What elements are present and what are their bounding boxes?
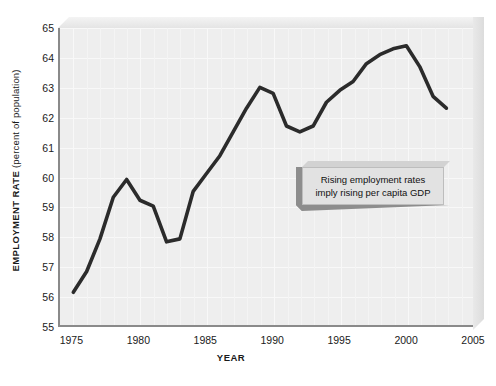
y-tick-label: 55 [30,321,54,333]
plot-box-right-bevel [473,17,484,330]
y-tick-label: 63 [30,82,54,94]
employment-rate-chart-figure: EMPLOYMENT RATE (percent of population) … [0,0,496,386]
y-tick-label: 61 [30,142,54,154]
y-tick-label: 64 [30,52,54,64]
y-tick-label: 57 [30,261,54,273]
annotation-body: Rising employment rates imply rising per… [302,167,444,205]
plot-box-top-bevel [58,17,484,28]
y-tick-label: 59 [30,201,54,213]
x-tick-label: 2005 [461,334,484,346]
x-axis-tick-labels: 1975198019851990199520002005 [0,334,496,350]
x-tick-label: 2000 [394,334,417,346]
y-axis-title-main: EMPLOYMENT RATE [10,170,21,271]
annotation-callout: Rising employment rates imply rising per… [296,161,444,205]
x-tick-label: 1990 [261,334,284,346]
x-tick-label: 1995 [327,334,350,346]
y-tick-label: 58 [30,231,54,243]
y-axis-title-sub: (percent of population) [10,69,21,168]
y-tick-label: 60 [30,172,54,184]
x-tick-label: 1975 [60,334,83,346]
x-axis-title-text: YEAR [217,352,245,363]
y-axis-tick-labels: 5556575859606162636465 [26,0,54,386]
y-tick-label: 62 [30,112,54,124]
annotation-line-2: imply rising per capita GDP [315,186,430,199]
x-tick-label: 1985 [194,334,217,346]
x-tick-label: 1980 [127,334,150,346]
annotation-line-1: Rising employment rates [321,173,426,186]
x-axis-title: YEAR [0,352,496,363]
y-tick-label: 56 [30,291,54,303]
y-tick-label: 65 [30,22,54,34]
